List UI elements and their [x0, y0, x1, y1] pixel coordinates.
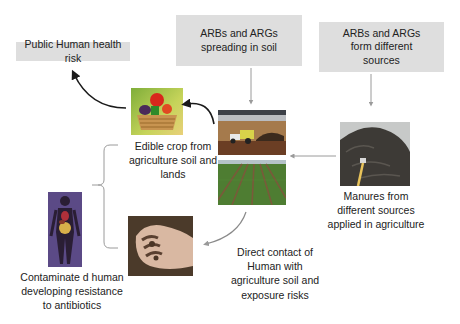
- diagram-connectors: [0, 0, 460, 324]
- arrow-crop-to-health: [74, 74, 126, 108]
- arrow-soil-to-crop: [186, 103, 214, 124]
- arrow-soil-to-hand: [206, 212, 246, 244]
- grouping-brace: [98, 145, 118, 248]
